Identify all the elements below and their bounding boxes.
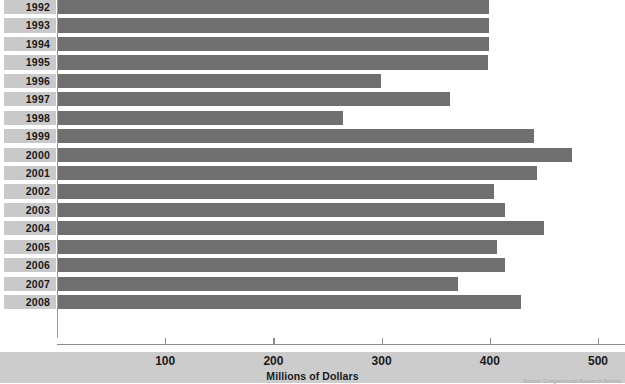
bar-row: 2005 (0, 240, 625, 258)
bar (57, 277, 458, 291)
x-axis-tick-label: 400 (480, 354, 500, 368)
year-label: 1992 (4, 0, 56, 14)
x-axis-line (57, 344, 625, 345)
x-axis-tick-label: 500 (588, 354, 608, 368)
bar (57, 295, 521, 309)
year-label: 1998 (4, 111, 56, 125)
zero-axis-line (57, 0, 58, 341)
x-axis-tick (273, 338, 274, 345)
year-label: 1995 (4, 55, 56, 69)
year-label: 2004 (4, 221, 56, 235)
year-label: 2003 (4, 203, 56, 217)
x-axis-tick (165, 338, 166, 345)
year-label: 2007 (4, 277, 56, 291)
year-label: 1997 (4, 92, 56, 106)
x-axis-tick (598, 338, 599, 345)
x-axis-tick-label: 100 (155, 354, 175, 368)
bar (57, 258, 505, 272)
bar (57, 203, 505, 217)
year-label: 1993 (4, 18, 56, 32)
bar (57, 166, 537, 180)
bar-row: 1992 (0, 0, 625, 18)
year-label: 2005 (4, 240, 56, 254)
bar (57, 221, 544, 235)
bar-row: 2003 (0, 203, 625, 221)
year-label: 2002 (4, 184, 56, 198)
year-label: 1996 (4, 74, 56, 88)
year-label: 1994 (4, 37, 56, 51)
bar-row: 1998 (0, 111, 625, 129)
year-label: 2006 (4, 258, 56, 272)
bar-row: 2008 (0, 295, 625, 313)
bar-row: 2000 (0, 148, 625, 166)
bar (57, 148, 572, 162)
bar (57, 55, 488, 69)
year-label: 2000 (4, 148, 56, 162)
x-axis-label-band: 100200300400500 Millions of Dollars Sour… (0, 352, 625, 383)
bar (57, 184, 494, 198)
bar-row: 2002 (0, 184, 625, 202)
bar (57, 37, 489, 51)
bar (57, 0, 489, 14)
year-label: 2001 (4, 166, 56, 180)
bar-row: 2004 (0, 221, 625, 239)
bar (57, 74, 381, 88)
source-note: Source: Congressional Research Service (523, 378, 621, 384)
bar (57, 111, 343, 125)
bar-row: 1995 (0, 55, 625, 73)
x-axis-tick-label: 300 (372, 354, 392, 368)
bar (57, 240, 497, 254)
bar-rows-container: 1992199319941995199619971998199920002001… (0, 0, 625, 313)
bar-row: 2006 (0, 258, 625, 276)
year-label: 2008 (4, 295, 56, 309)
bar-row: 1996 (0, 74, 625, 92)
x-axis-tick (382, 338, 383, 345)
bar (57, 18, 489, 32)
bar-row: 1997 (0, 92, 625, 110)
x-axis-tick (490, 338, 491, 345)
bar-row: 1994 (0, 37, 625, 55)
bar-row: 1993 (0, 18, 625, 36)
year-label: 1999 (4, 129, 56, 143)
x-axis-tick-label: 200 (263, 354, 283, 368)
bar (57, 129, 534, 143)
bar (57, 92, 450, 106)
bar-row: 2001 (0, 166, 625, 184)
plot-area: 1992199319941995199619971998199920002001… (0, 0, 625, 338)
x-axis-band (0, 338, 625, 352)
bar-row: 2007 (0, 277, 625, 295)
bar-row: 1999 (0, 129, 625, 147)
